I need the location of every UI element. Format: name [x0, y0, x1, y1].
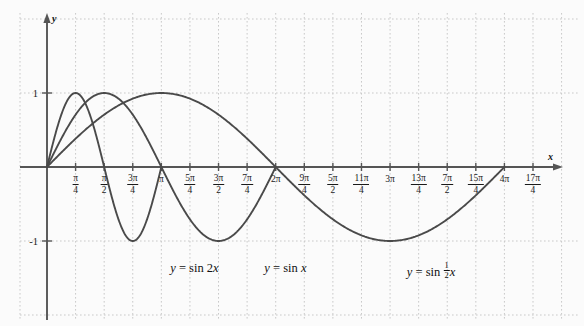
- x-tick-label: 11π4: [353, 174, 369, 195]
- sine-curves-figure: π4π23π4π5π43π27π42π9π45π211π43π13π47π215…: [0, 0, 584, 326]
- x-tick-label: 17π4: [525, 174, 541, 195]
- curve-equation-label: y = sin 2x: [170, 261, 218, 276]
- x-tick-label: π: [159, 175, 164, 185]
- x-tick-label: 7π2: [441, 174, 453, 195]
- x-tick-label: 3π2: [213, 174, 225, 195]
- x-tick-label: π2: [101, 174, 108, 195]
- x-axis-label: x: [548, 151, 553, 162]
- x-tick-label: 5π4: [184, 174, 196, 195]
- x-tick-label: 7π4: [241, 174, 253, 195]
- y-axis-label: y: [52, 13, 56, 24]
- x-tick-label: 5π2: [327, 174, 339, 195]
- x-tick-label: 9π4: [299, 174, 311, 195]
- chart-background: [0, 0, 584, 326]
- y-tick-label: -1: [29, 236, 38, 247]
- x-tick-label: 15π4: [468, 174, 484, 195]
- x-tick-label: 4π: [500, 175, 510, 185]
- x-tick-label: 3π: [385, 175, 395, 185]
- curve-equation-label: y = sin 12x: [407, 261, 455, 280]
- y-tick-label: 1: [33, 88, 38, 99]
- x-tick-label: 2π: [271, 175, 281, 185]
- x-tick-label: π4: [72, 174, 79, 195]
- curve-equation-label: y = sin x: [264, 261, 306, 276]
- x-tick-label: 3π4: [127, 174, 139, 195]
- chart-canvas: [0, 0, 584, 326]
- x-tick-label: 13π4: [410, 174, 426, 195]
